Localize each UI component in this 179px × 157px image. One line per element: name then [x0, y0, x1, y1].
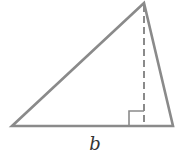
right-angle-marker [129, 111, 144, 126]
base-label: b [89, 133, 101, 154]
triangle-diagram: b [0, 0, 179, 157]
triangle [12, 3, 173, 126]
